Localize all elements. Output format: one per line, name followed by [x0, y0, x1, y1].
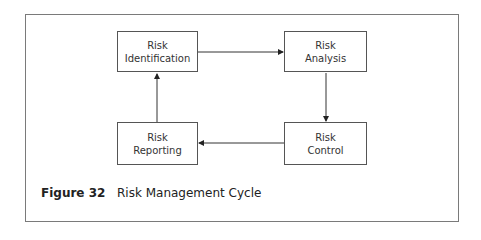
node-risk-reporting: Risk Reporting [117, 122, 198, 165]
node-label-line2: Control [307, 144, 343, 157]
node-risk-identification: Risk Identification [117, 31, 198, 72]
node-label-line1: Risk [315, 39, 336, 52]
node-risk-analysis: Risk Analysis [284, 31, 367, 72]
node-label-line2: Identification [125, 52, 191, 65]
node-risk-control: Risk Control [284, 122, 367, 165]
node-label-line2: Reporting [133, 144, 182, 157]
node-label-line1: Risk [147, 131, 168, 144]
node-label-line1: Risk [147, 39, 168, 52]
figure-number: Figure 32 [41, 186, 105, 200]
node-label-line1: Risk [315, 131, 336, 144]
node-label-line2: Analysis [305, 52, 346, 65]
figure-title: Risk Management Cycle [117, 186, 261, 200]
figure-caption: Figure 32 Risk Management Cycle [41, 186, 105, 200]
